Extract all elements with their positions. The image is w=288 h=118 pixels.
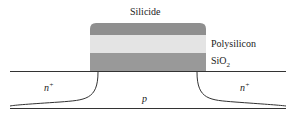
- n-plus-right-label: n+: [240, 81, 250, 93]
- silicide-label: Silicide: [130, 6, 161, 17]
- n-left-sup: +: [49, 81, 54, 89]
- n-plus-left-label: n+: [44, 81, 54, 93]
- n-right-sup: +: [245, 81, 250, 89]
- polysilicon-label: Polysilicon: [211, 38, 256, 49]
- left-junction-curve: [10, 72, 98, 106]
- sio2-label-subscript: 2: [227, 61, 231, 69]
- sio2-label: SiO2: [211, 55, 230, 69]
- sio2-label-main: SiO: [211, 55, 227, 66]
- polysilicon-layer: [90, 35, 206, 53]
- p-region-label: p: [142, 93, 147, 104]
- silicide-layer: [90, 23, 206, 35]
- sio2-layer: [90, 53, 206, 71]
